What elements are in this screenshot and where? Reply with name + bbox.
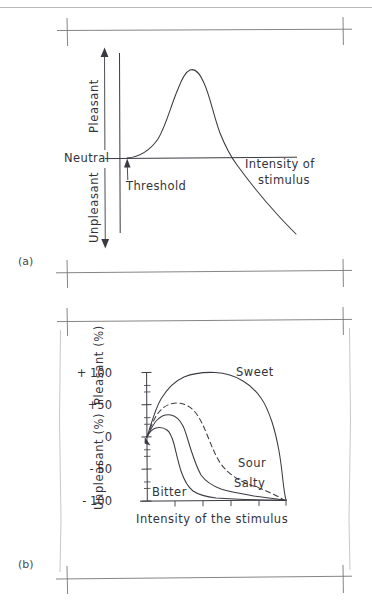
panel-b-origin-mark <box>145 437 151 446</box>
panel-b-series-label-bitter: Bitter <box>152 485 187 499</box>
panel-b-ytick-minus50: - 50 <box>90 462 112 476</box>
panel-a-intensity-label-line2: stimulus <box>258 173 310 187</box>
panel-b-ytick-plus100: + 100 <box>77 366 112 380</box>
panel-a-threshold-arrow-head <box>124 159 131 168</box>
panel-a-unpleasant-label: Unpleasant <box>87 172 101 243</box>
panel-a-intensity-label-line1: Intensity of <box>245 157 315 171</box>
panel-b-ytick-plus50: +50 <box>88 398 112 412</box>
panel-a-down-arrow-head <box>101 239 109 249</box>
panel-b-series-label-salty: Salty <box>234 476 265 490</box>
panel-a-y-axis <box>120 53 121 233</box>
panel-a-pleasant-label: Pleasant <box>87 79 101 133</box>
panel-b-series-label-sour: Sour <box>238 456 266 470</box>
panel-a-threshold-label: Threshold <box>125 179 186 193</box>
panel-a-axes <box>101 48 297 249</box>
panel-tag-b: (b) <box>18 558 34 571</box>
panel-a-curve <box>127 70 296 234</box>
panel-tag-a: (a) <box>18 255 33 268</box>
panel-a-up-arrow-head <box>101 48 109 58</box>
panel-a-neutral-label: Neutral <box>64 151 109 165</box>
panel-b-xaxis-label: Intensity of the stimulus <box>136 512 288 526</box>
figure-page: Pleasant Neutral Unpleasant Threshold In… <box>0 0 372 614</box>
panel-b-series-label-sweet: Sweet <box>236 365 274 379</box>
panel-b-ytick-minus100: - 100 <box>82 494 112 508</box>
panel-b-ytick-zero: 0 <box>105 430 112 444</box>
figure-canvas: Pleasant Neutral Unpleasant Threshold In… <box>0 0 372 614</box>
